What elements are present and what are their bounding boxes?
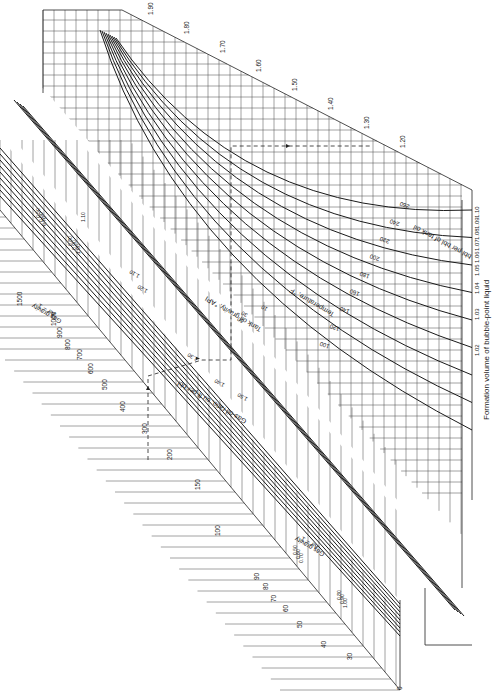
bo-tick-label: 1.90: [147, 2, 154, 15]
gor-tick-label: 50: [296, 620, 303, 628]
gor-tick-label: 30: [346, 652, 353, 660]
gor-tick-label: 900: [56, 327, 63, 338]
gor-tick-label: 200: [166, 449, 173, 460]
temperature-curve-label: 100: [318, 340, 330, 349]
bo-axis-unit: bbl per bbl of tank oil: [412, 223, 473, 261]
bo-tick-label: 1.70: [219, 40, 226, 53]
gor-tick-label: 400: [119, 401, 126, 412]
gor-tick-label: 40: [320, 640, 327, 648]
temperature-curve-label: 120: [328, 323, 340, 332]
gas-gravity-label: 1.00: [75, 244, 81, 254]
gas-gravity-label: 1.10: [80, 212, 86, 222]
temperature-curve-label: 160: [348, 288, 360, 297]
bo-tick-label: 1.09: [474, 217, 480, 229]
gor-tick-label: 800: [64, 339, 71, 350]
oil-gravity-label: 10: [260, 304, 268, 312]
gor-tick-label: 60: [282, 604, 289, 612]
gor-tick-label: 600: [87, 363, 94, 374]
oil-gravity-label: 1.50: [236, 392, 248, 403]
bo-tick-label: 1.60: [255, 59, 262, 72]
bo-tick-label: 1.06: [474, 251, 480, 263]
bo-tick-label: 1.05: [474, 264, 480, 276]
gor-tick-label: 70: [270, 594, 277, 602]
bo-axis-title: Formation volume of bubble-point liquid: [482, 280, 491, 420]
bo-tick-label: 1.02: [474, 344, 480, 356]
bo-tick-label: 1.30: [363, 116, 370, 129]
bo-tick-label: 1.10: [474, 206, 480, 218]
bo-tick-label: 1.03: [474, 308, 480, 320]
gas-gravity-label: 0.70: [298, 553, 304, 563]
example-path: [146, 144, 372, 460]
oil-gravity-label: 1.10: [128, 269, 140, 280]
temperature-curve-label: 200: [368, 253, 380, 262]
bo-tick-label: 1.80: [183, 21, 190, 34]
gas-gravity-label: 1.00: [342, 598, 348, 608]
bo-tick-label: 1.20: [399, 135, 406, 148]
axis-labels: 1001201401601802002202402601.901.801.701…: [16, 2, 480, 690]
gor-tick-label: 150: [194, 479, 201, 490]
gor-tick-label: 300: [141, 423, 148, 434]
temperature-curve-label: 180: [358, 270, 370, 279]
bo-tick-label: 1.04: [474, 282, 480, 294]
nomograph-chart: 1001201401601802002202402601.901.801.701…: [0, 0, 494, 692]
bo-tick-label: 1.08: [474, 228, 480, 240]
gor-tick-label: 90: [253, 572, 260, 580]
gor-tick-label: 500: [101, 379, 108, 390]
bo-tick-label: 1.07: [474, 239, 480, 251]
gor-tick-label: 80: [262, 582, 269, 590]
bo-tick-label: 1.50: [291, 78, 298, 91]
gor-tick-label: 700: [76, 349, 83, 360]
gor-tick-label: 100: [214, 525, 221, 536]
gor-tick-label: 1500: [16, 291, 23, 306]
temperature-curve-label: 240: [388, 218, 400, 227]
gor-tick-label: 0: [396, 686, 403, 690]
nomograph-svg: 1001201401601802002202402601.901.801.701…: [0, 0, 494, 692]
bo-tick-label: 1.40: [327, 97, 334, 110]
gas-gravity-label: 0.70: [41, 216, 47, 226]
temperature-curve-label: 220: [378, 235, 390, 244]
